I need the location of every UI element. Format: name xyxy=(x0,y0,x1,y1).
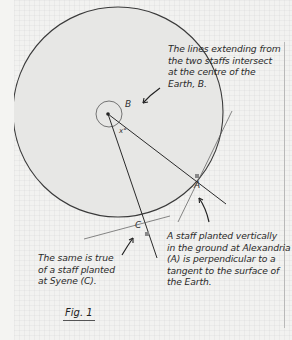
label-angle: x° xyxy=(119,127,127,135)
earth-circle xyxy=(13,7,223,217)
note-centre: The lines extending from the two staffs … xyxy=(168,43,281,89)
point-a xyxy=(195,174,199,178)
note-alexandria: A staff planted vertically in the ground… xyxy=(167,230,291,288)
figure-caption: Fig. 1 xyxy=(63,307,95,321)
label-b: B xyxy=(125,99,131,109)
arrow-to-c xyxy=(122,238,133,255)
note-syene: The same is true of a staff planted at S… xyxy=(38,252,115,287)
label-c: C xyxy=(135,220,141,230)
arrow-to-a xyxy=(199,198,209,222)
tangent-at-c xyxy=(84,216,170,239)
point-c xyxy=(145,232,149,236)
label-a: A xyxy=(194,180,200,190)
